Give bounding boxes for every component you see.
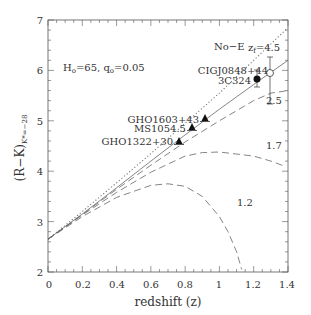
label-1.2: 1.2 bbox=[237, 197, 253, 208]
y-tick-5: 5 bbox=[37, 116, 43, 127]
x-tick-labels: 0 0.2 0.4 0.6 0.8 1 1.2 1.4 bbox=[46, 279, 295, 290]
curve-z-f-4-5 bbox=[48, 60, 288, 239]
x-axis-label: redshift (z) bbox=[134, 295, 201, 309]
label-3c324: 3C324 bbox=[218, 75, 251, 86]
label-1.7: 1.7 bbox=[266, 140, 282, 151]
x-tick-0: 0 bbox=[46, 279, 52, 290]
chart: 7 6 5 4 3 2 0 0.2 0.4 0.6 0.8 1 1.2 1.4 … bbox=[0, 0, 311, 315]
x-tick-1: 1 bbox=[216, 279, 222, 290]
y-tick-2: 2 bbox=[37, 267, 43, 278]
x-tick-0.8: 0.8 bbox=[177, 279, 193, 290]
cosmology-annotation: Ho=65, qo=0.05 bbox=[63, 62, 145, 75]
y-tick-labels: 7 6 5 4 3 2 bbox=[37, 15, 43, 278]
y-tick-3: 3 bbox=[37, 217, 43, 228]
x-tick-0.2: 0.2 bbox=[75, 279, 91, 290]
y-tick-7: 7 bbox=[37, 15, 43, 26]
curve-1-2 bbox=[48, 184, 242, 270]
label-gho1322: GHO1322+30 bbox=[102, 136, 173, 147]
curve-2-5 bbox=[48, 91, 288, 240]
label-zf: zf=4.5 bbox=[248, 42, 280, 55]
x-tick-1.4: 1.4 bbox=[279, 279, 295, 290]
label-no-e: No−E bbox=[214, 41, 244, 52]
curve-1-7 bbox=[48, 152, 285, 239]
y-tick-6: 6 bbox=[37, 65, 43, 76]
x-tick-0.6: 0.6 bbox=[143, 279, 159, 290]
svg-text:(R−K)K*=−28: (R−K)K*=−28 bbox=[13, 115, 29, 182]
x-tick-0.4: 0.4 bbox=[109, 279, 125, 290]
point-3c324 bbox=[254, 76, 261, 83]
y-tick-4: 4 bbox=[37, 166, 43, 177]
point-gho1603 bbox=[202, 114, 209, 121]
y-axis-label: (R−K)K*=−28 bbox=[13, 115, 29, 182]
label-ms1054: MS1054.5 bbox=[134, 123, 186, 134]
x-tick-1.2: 1.2 bbox=[245, 279, 261, 290]
